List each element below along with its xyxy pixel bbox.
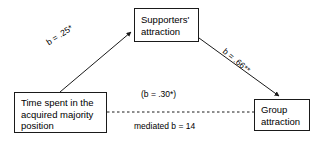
node-group-line-2: attraction [261,116,304,128]
edge-label-mediated-effect: mediated b = 14 [134,121,195,131]
node-supporters-line-1: Supporters' [141,14,193,26]
node-time-spent-line-1: Time spent in the [21,97,101,109]
node-time-spent-line-3: position [21,120,101,132]
node-time-spent-line-2: acquired majority [21,109,101,121]
node-supporters-line-2: attraction [141,26,193,38]
node-group-attraction: Group attraction [254,99,310,131]
node-supporters-attraction: Supporters' attraction [134,8,199,42]
path-diagram-canvas: Supporters' attraction Time spent in the… [0,0,323,144]
node-group-line-1: Group [261,104,304,116]
edge-label-direct-effect: (b = .30*) [141,89,176,99]
edge-time-to-supporters [60,32,131,92]
node-time-spent-in-acquired-majority-position: Time spent in the acquired majority posi… [14,92,107,133]
